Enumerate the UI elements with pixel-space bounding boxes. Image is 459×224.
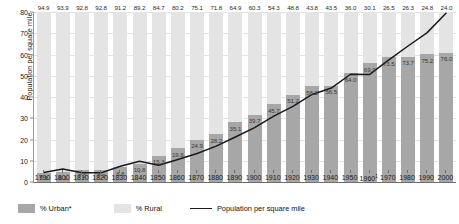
x-axis-tick-1840: 1840 — [131, 174, 147, 181]
x-axis-tick-1980: 1980 — [399, 174, 415, 181]
bar-label-urban: 28.2 — [210, 137, 222, 144]
bar-label-rural: 24.0 — [441, 4, 453, 11]
bar-segment-rural — [267, 12, 281, 104]
bar-segment-rural — [324, 12, 338, 86]
bar-column — [152, 12, 166, 182]
x-axis-tick-mark — [273, 170, 274, 173]
x-axis-tick-mark — [292, 170, 293, 173]
bar-segment-rural — [56, 12, 70, 172]
bar-label-rural: 43.5 — [325, 4, 337, 11]
legend-swatch-rural — [114, 204, 131, 213]
x-axis-tick-mark — [445, 170, 446, 173]
bar-column — [439, 12, 453, 182]
bar-column — [94, 12, 108, 182]
x-axis-tick-mark — [350, 170, 351, 173]
bar-segment-rural — [171, 12, 185, 148]
bar-segment-rural — [94, 12, 108, 170]
y-axis-tick-80: 80 — [6, 9, 28, 16]
y-axis-tick-50: 50 — [6, 72, 28, 79]
x-axis-tick-1970: 1970 — [380, 174, 396, 181]
x-axis-tick-mark — [254, 170, 255, 173]
x-axis-tick-mark — [407, 170, 408, 173]
bar-column — [113, 12, 127, 182]
x-axis-tick-mark — [196, 170, 197, 173]
x-axis-tick-mark — [177, 170, 178, 173]
bar-segment-urban — [286, 95, 300, 182]
bar-column — [363, 12, 377, 182]
bar-segment-urban — [344, 73, 358, 182]
x-axis-tick-mark — [158, 170, 159, 173]
bar-label-rural: 93.9 — [57, 4, 69, 11]
bar-column — [37, 12, 51, 182]
bar-label-urban: 56.2 — [306, 89, 318, 96]
bar-column — [344, 12, 358, 182]
bar-column — [324, 12, 338, 182]
bar-segment-rural — [248, 12, 262, 115]
x-axis-tick-mark — [215, 170, 216, 173]
x-axis-tick-mark — [119, 170, 120, 173]
x-axis-tick-1930: 1930 — [303, 174, 319, 181]
x-axis-tick-1880: 1880 — [207, 174, 223, 181]
bar-label-rural: 89.2 — [134, 4, 146, 11]
x-axis-tick-1960: 19601 — [360, 174, 378, 182]
legend-item-rural: % Rural — [114, 204, 162, 213]
bar-segment-rural — [439, 12, 453, 53]
x-axis-tick-mark — [62, 170, 63, 173]
bar-column — [382, 12, 396, 182]
bar-column — [228, 12, 242, 182]
bar-segment-rural — [228, 12, 242, 122]
bar-label-rural: 91.2 — [114, 4, 126, 11]
bar-column — [420, 12, 434, 182]
x-axis-tick-1920: 1920 — [284, 174, 300, 181]
x-axis-tick-mark — [234, 170, 235, 173]
x-axis-tick-1870: 1870 — [188, 174, 204, 181]
bar-label-rural: 75.1 — [191, 4, 203, 11]
bar-column — [401, 12, 415, 182]
bar-column — [75, 12, 89, 182]
bar-segment-rural — [344, 12, 358, 73]
bar-label-rural: 92.8 — [95, 4, 107, 11]
y-axis-tick-10: 10 — [6, 157, 28, 164]
bar-column — [56, 12, 70, 182]
bar-segment-urban — [248, 115, 262, 182]
bar-segment-urban — [401, 57, 415, 182]
bar-segment-urban — [363, 63, 377, 182]
x-axis-tick-1940: 1940 — [323, 174, 339, 181]
x-axis-tick-mark — [311, 170, 312, 173]
legend-swatch-line — [190, 208, 212, 209]
bar-segment-rural — [133, 12, 147, 164]
plot-area: 5.194.96.193.97.292.87.292.88.891.210.88… — [33, 12, 456, 183]
bar-label-urban: 69.9 — [364, 66, 376, 73]
bar-segment-rural — [401, 12, 415, 57]
bar-label-rural: 26.5 — [383, 4, 395, 11]
bar-label-urban: 19.8 — [172, 151, 184, 158]
bar-label-urban: 15.3 — [153, 158, 165, 165]
x-axis-tick-mark — [426, 170, 427, 173]
bar-label-urban: 45.7 — [268, 107, 280, 114]
bar-segment-rural — [286, 12, 300, 95]
bar-segment-rural — [37, 12, 51, 173]
bar-label-urban: 10.8 — [134, 166, 146, 173]
legend-item-urban: % Urban* — [18, 204, 72, 213]
bar-segment-rural — [75, 12, 89, 170]
bar-segment-urban — [305, 86, 319, 182]
bar-label-urban: 51.2 — [287, 97, 299, 104]
x-axis-tick-mark — [81, 170, 82, 173]
legend-label-rural: % Rural — [136, 204, 162, 213]
bar-label-urban: 75.2 — [421, 57, 433, 64]
x-axis-tick-1910: 1910 — [265, 174, 281, 181]
bar-segment-urban — [324, 86, 338, 182]
x-axis-tick-1860: 1860 — [169, 174, 185, 181]
y-axis-tick-70: 70 — [6, 30, 28, 37]
legend-swatch-urban — [18, 204, 35, 213]
bar-label-rural: 24.8 — [421, 4, 433, 11]
bar-column — [190, 12, 204, 182]
x-axis-tick-1950: 1950 — [342, 174, 358, 181]
chart-container: Population per square mile 0102030405060… — [0, 0, 459, 224]
x-axis-tick-mark — [43, 170, 44, 173]
y-axis-tick-40: 40 — [6, 94, 28, 101]
x-axis-tick-1850: 1850 — [150, 174, 166, 181]
legend-item-density: Population per square mile — [190, 204, 305, 213]
bar-column — [248, 12, 262, 182]
y-axis-tick-60: 60 — [6, 51, 28, 58]
